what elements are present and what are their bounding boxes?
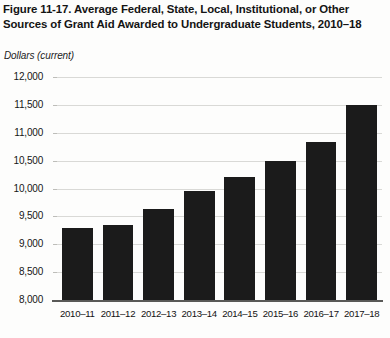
y-axis-unit-label: Dollars (current) — [4, 50, 74, 61]
bar — [224, 177, 255, 300]
bar — [346, 105, 377, 300]
gridline — [57, 105, 382, 106]
gridline — [57, 133, 382, 134]
x-axis-tick-label: 2011–12 — [98, 308, 139, 319]
y-axis-tick-mark — [53, 189, 57, 190]
x-axis-tick-label: 2012–13 — [138, 308, 179, 319]
figure-title: Figure 11-17. Average Federal, State, Lo… — [3, 2, 387, 31]
y-axis-tick-mark — [53, 272, 57, 273]
x-axis-tick-label: 2010–11 — [57, 308, 98, 319]
x-axis-tick-label: 2016–17 — [301, 308, 342, 319]
bar — [103, 225, 134, 300]
y-axis-tick-label: 8,000 — [0, 294, 43, 305]
bar — [184, 191, 215, 300]
x-axis-tick-label: 2014–15 — [220, 308, 261, 319]
y-axis-tick-label: 12,000 — [0, 71, 43, 82]
bar — [265, 161, 296, 300]
y-axis-tick-mark — [53, 133, 57, 134]
plot-area: 8,0008,5009,0009,50010,00010,50011,00011… — [57, 77, 382, 300]
y-axis-tick-mark — [53, 244, 57, 245]
x-axis-line — [52, 300, 383, 302]
x-axis-tick-label: 2015–16 — [260, 308, 301, 319]
y-axis-tick-label: 11,500 — [0, 99, 43, 110]
y-axis-tick-label: 10,000 — [0, 183, 43, 194]
figure-container: Figure 11-17. Average Federal, State, Lo… — [0, 0, 390, 338]
y-axis-tick-mark — [53, 216, 57, 217]
x-axis-tick-label: 2013–14 — [179, 308, 220, 319]
y-axis-tick-label: 8,500 — [0, 266, 43, 277]
y-axis-tick-label: 9,500 — [0, 210, 43, 221]
y-axis-tick-label: 11,000 — [0, 127, 43, 138]
y-axis-tick-mark — [53, 161, 57, 162]
bar — [306, 142, 337, 300]
gridline — [57, 77, 382, 78]
x-axis-tick-label: 2017–18 — [341, 308, 382, 319]
y-axis-tick-label: 9,000 — [0, 238, 43, 249]
bar — [143, 209, 174, 300]
bar — [62, 228, 93, 300]
y-axis-tick-label: 10,500 — [0, 155, 43, 166]
y-axis-tick-mark — [53, 105, 57, 106]
y-axis-tick-mark — [53, 77, 57, 78]
